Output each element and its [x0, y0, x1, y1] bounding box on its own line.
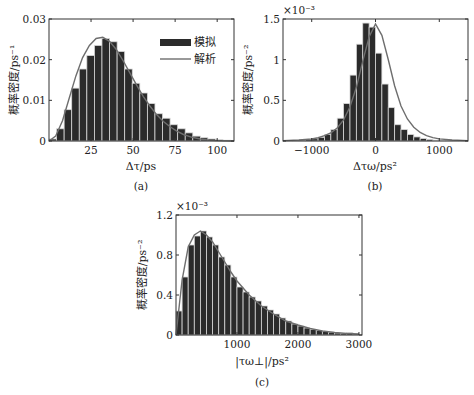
histogram-bar: [369, 27, 375, 141]
histogram-bar: [407, 134, 413, 141]
histogram-bar: [388, 108, 394, 141]
histogram-bar: [206, 237, 212, 335]
x-tick-label: 25: [84, 144, 97, 156]
histogram-bar: [155, 114, 163, 141]
multiplier-b: ×10⁻³: [283, 4, 315, 16]
histogram-bar: [350, 75, 356, 141]
y-tick-label: 0.5: [263, 94, 280, 106]
histogram-bar: [117, 52, 125, 141]
legend-a: 模拟 解析: [160, 35, 216, 66]
histogram-bar: [110, 42, 118, 141]
histogram-bar: [79, 69, 87, 141]
histogram-bar: [225, 265, 231, 335]
histogram-bar: [243, 292, 249, 335]
x-tick-label: 2000: [285, 338, 312, 350]
panel-a: 25507510000.010.020.03 模拟 解析 Δτ/ps 概率密度/…: [7, 13, 234, 192]
histogram-bar: [376, 53, 382, 141]
histogram-bar: [249, 297, 255, 335]
x-tick-label: 75: [168, 144, 181, 156]
multiplier-c: ×10⁻³: [176, 200, 208, 212]
y-tick-label: 1.2: [156, 209, 173, 221]
y-tick-label: 0: [166, 329, 173, 341]
y-axis-label-b: 概率密度/ps⁻²: [241, 45, 255, 116]
x-axis-label-c: |τω⊥|/ps²: [235, 355, 289, 369]
histogram-bars-b: [286, 23, 465, 141]
figure: 25507510000.010.020.03 模拟 解析 Δτ/ps 概率密度/…: [0, 0, 474, 395]
histogram-bar: [147, 104, 155, 141]
legend-bar-swatch: [160, 39, 191, 46]
histogram-bar: [72, 88, 80, 141]
y-axis-label-a: 概率密度/ps⁻¹: [7, 45, 21, 116]
histogram-bar: [87, 56, 95, 141]
y-tick-label: 0.4: [156, 289, 173, 301]
histogram-bar: [401, 130, 407, 141]
y-tick-label: 0.03: [23, 13, 46, 25]
histogram-bar: [382, 84, 388, 141]
histogram-bar: [395, 125, 401, 141]
histogram-bar: [414, 137, 420, 141]
y-tick-label: 1: [273, 54, 280, 66]
histogram-bar: [64, 110, 72, 141]
y-tick-label: 0.02: [23, 54, 46, 66]
histogram-bar: [356, 44, 362, 141]
histogram-bar: [304, 328, 310, 335]
histogram-bars-c: [176, 231, 359, 335]
histogram-bar: [255, 301, 261, 335]
x-tick-label: −1000: [294, 144, 330, 156]
legend-label-analytic: 解析: [194, 52, 216, 66]
histogram-bar: [310, 330, 316, 336]
y-tick-label: 0.8: [156, 249, 173, 261]
histogram-bar: [298, 326, 304, 335]
caption-b: (b): [368, 180, 383, 192]
histogram-bar: [213, 245, 219, 335]
y-tick-label: 0: [39, 135, 46, 147]
histogram-bar: [194, 236, 200, 335]
panel-b: −10000100000.511.5 ×10⁻³ Δτω/ps² 概率密度/ps…: [241, 4, 468, 192]
y-tick-label: 1.5: [263, 13, 280, 25]
histogram-bar: [231, 277, 237, 335]
y-axis-label-c: 概率密度/ps⁻²: [135, 240, 149, 311]
histogram-bar: [182, 277, 188, 335]
x-tick-label: 100: [207, 144, 227, 156]
y-tick-label: 0.01: [23, 94, 46, 106]
x-axis-label-a: Δτ/ps: [126, 160, 157, 173]
caption-c: (c): [255, 376, 269, 388]
x-tick-label: 50: [126, 144, 139, 156]
histogram-bar: [188, 245, 194, 335]
x-tick-label: 1000: [224, 338, 251, 350]
y-tick-label: 0: [273, 135, 280, 147]
histogram-bar: [102, 39, 110, 141]
histogram-bar: [292, 324, 298, 335]
panel-c: 10002000300000.40.81.2 ×10⁻³ |τω⊥|/ps² 概…: [135, 200, 372, 388]
histogram-bar: [125, 69, 133, 141]
x-tick-label: 0: [372, 144, 379, 156]
legend-label-sim: 模拟: [194, 35, 216, 49]
histogram-bar: [200, 231, 206, 335]
caption-a: (a): [134, 180, 148, 192]
x-tick-label: 1000: [426, 144, 453, 156]
histogram-bar: [261, 306, 267, 335]
histogram-bar: [219, 257, 225, 335]
x-tick-label: 3000: [346, 338, 373, 350]
histogram-bar: [237, 287, 243, 335]
x-axis-label-b: Δτω/ps²: [353, 160, 397, 173]
histogram-bar: [132, 83, 140, 141]
histogram-bar: [94, 45, 102, 141]
